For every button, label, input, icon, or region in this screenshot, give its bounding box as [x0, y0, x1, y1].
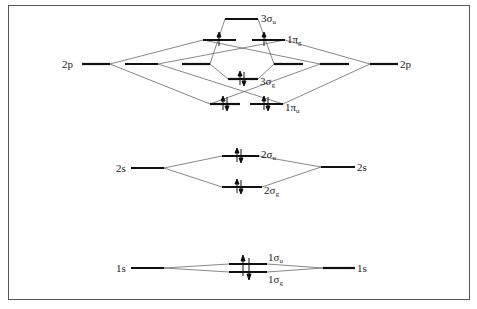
left-1s-label: 1s — [116, 262, 126, 274]
mo-2su-label: 2σu — [261, 148, 276, 162]
connector-lines — [110, 19, 370, 272]
molecular-orbitals — [203, 19, 285, 272]
right-2s-label: 2s — [357, 161, 367, 173]
right-atomic-orbitals — [274, 64, 398, 268]
mo-1su-label: 1σu — [268, 251, 283, 265]
electron-pair-icon — [241, 255, 251, 280]
mo-3sg-label: 3σg — [260, 75, 275, 89]
mo-1sg-label: 1σg — [268, 273, 283, 287]
mo-1pg-label: 1πg — [287, 33, 302, 47]
left-2p-label: 2p — [62, 58, 74, 70]
mo-3su-label: 3σu — [261, 12, 276, 26]
right-2p-label: 2p — [400, 58, 412, 70]
right-1s-label: 1s — [357, 262, 367, 274]
mo-1pu-label: 1πu — [285, 101, 300, 115]
mo-diagram: 2p 2p 2s 2s 1s 1s 3σu 1πg 3σg 1πu 2σu 2σ… — [0, 0, 477, 309]
left-2s-label: 2s — [116, 162, 126, 174]
mo-2sg-label: 2σg — [264, 184, 279, 198]
left-atomic-orbitals — [82, 64, 210, 268]
